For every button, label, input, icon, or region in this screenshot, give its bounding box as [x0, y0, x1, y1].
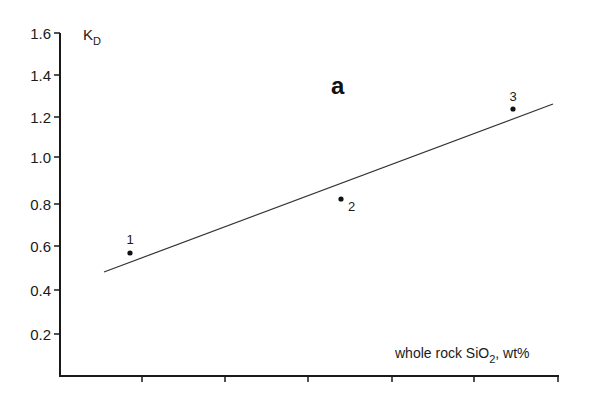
chart: 1.6 1.4 1.2 1.0 0.8 0.6 0.4 0.2 KD whole…	[0, 0, 589, 418]
x-axis-label-main: whole rock SiO	[394, 345, 489, 361]
point-label: 1	[126, 232, 133, 247]
x-axis-label: whole rock SiO2, wt%	[394, 345, 530, 365]
data-point-3: 3	[509, 89, 516, 112]
y-tick-label: 0.6	[30, 238, 51, 255]
point-label: 2	[348, 199, 355, 214]
y-axis-label-main: K	[83, 26, 93, 43]
y-axis-label-sub: D	[93, 35, 101, 47]
y-tick-label: 1.0	[30, 149, 51, 166]
point-label: 3	[509, 89, 516, 104]
y-tick-label: 0.4	[30, 282, 51, 299]
y-tick-labels: 1.6 1.4 1.2 1.0 0.8 0.6 0.4 0.2	[30, 25, 51, 343]
y-tick-label: 0.8	[30, 196, 51, 213]
x-axis-label-tail: , wt%	[495, 345, 529, 361]
y-tick-label: 1.2	[30, 109, 51, 126]
data-point-2: 2	[338, 196, 355, 214]
y-tick-label: 0.2	[30, 326, 51, 343]
x-axis	[59, 376, 559, 382]
panel-label: a	[331, 72, 345, 99]
y-tick-label: 1.6	[30, 25, 51, 42]
y-axis	[54, 33, 60, 376]
fit-line	[104, 104, 553, 272]
y-axis-label: KD	[83, 26, 101, 47]
data-point-1: 1	[126, 232, 133, 256]
y-tick-label: 1.4	[30, 67, 51, 84]
